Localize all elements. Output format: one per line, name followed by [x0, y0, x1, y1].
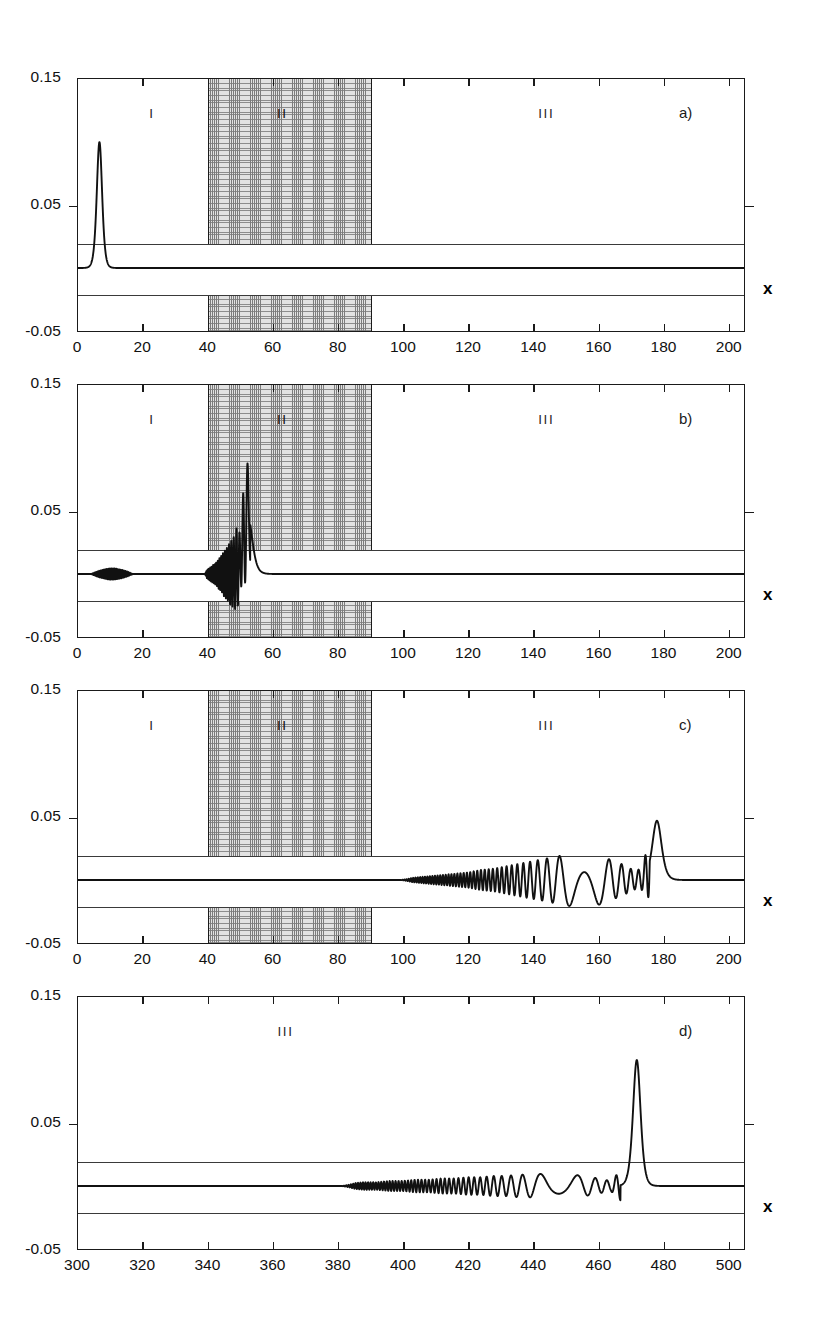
x-axis-name: x — [763, 1197, 772, 1217]
y-axis-label-1: 0.05 — [30, 195, 61, 213]
region-label-one: I — [149, 718, 154, 733]
signal-path — [78, 1060, 744, 1200]
y-axis-label-0: 0.15 — [30, 374, 61, 392]
x-axis-label-4: 380 — [325, 1256, 351, 1274]
signal-curve-d — [78, 997, 744, 1249]
x-axis-label-8: 460 — [585, 1256, 611, 1274]
y-axis-label-2: -0.05 — [25, 628, 61, 646]
region-label-one: I — [149, 106, 154, 121]
x-axis-label-9: 180 — [651, 644, 677, 662]
panel-d: 0.150.05-0.05300320340360380400420440460… — [0, 970, 813, 1270]
x-axis-label-7: 140 — [520, 644, 546, 662]
y-tick-mark-right — [744, 512, 754, 513]
x-axis-label-8: 160 — [585, 644, 611, 662]
x-axis-label-3: 60 — [264, 338, 281, 356]
panel-tag-b: b) — [679, 410, 692, 427]
panel-tag-d: d) — [679, 1022, 692, 1039]
panel-tag-a: a) — [679, 104, 692, 121]
panel-c: 0.150.05-0.05020406080100120140160180200… — [0, 664, 813, 964]
x-axis-label-3: 60 — [264, 644, 281, 662]
x-axis-label-1: 20 — [134, 338, 151, 356]
y-axis-label-2: -0.05 — [25, 1240, 61, 1258]
region-label-three: III — [278, 1024, 294, 1039]
plot-area-a — [77, 78, 745, 332]
panel-b: 0.150.05-0.05020406080100120140160180200… — [0, 358, 813, 658]
x-axis-label-5: 400 — [390, 1256, 416, 1274]
plot-area-d — [77, 996, 745, 1250]
x-axis-label-5: 100 — [390, 950, 416, 968]
x-axis-label-6: 120 — [455, 950, 481, 968]
x-axis-label-0: 0 — [73, 338, 82, 356]
x-axis-label-0: 300 — [64, 1256, 90, 1274]
x-axis-label-0: 0 — [73, 644, 82, 662]
region-label-three: III — [538, 106, 554, 121]
region-label-three: III — [538, 718, 554, 733]
panel-tag-c: c) — [679, 716, 692, 733]
x-axis-label-2: 40 — [199, 338, 216, 356]
y-tick-mark-right — [744, 206, 754, 207]
x-axis-label-9: 480 — [651, 1256, 677, 1274]
y-tick-mark-middle — [69, 818, 78, 819]
figure-wave-propagation: 0.150.05-0.05020406080100120140160180200… — [0, 0, 813, 1338]
y-axis-label-1: 0.05 — [30, 1113, 61, 1131]
x-axis-label-5: 100 — [390, 338, 416, 356]
y-tick-mark-middle — [69, 1124, 78, 1125]
y-axis-label-0: 0.15 — [30, 68, 61, 86]
x-axis-label-7: 140 — [520, 950, 546, 968]
region-label-one: I — [149, 412, 154, 427]
x-axis-label-4: 80 — [329, 644, 346, 662]
x-axis-label-9: 180 — [651, 950, 677, 968]
y-axis-label-1: 0.05 — [30, 501, 61, 519]
x-axis-label-8: 160 — [585, 950, 611, 968]
signal-curve-b — [78, 385, 744, 637]
x-axis-label-6: 120 — [455, 338, 481, 356]
plot-area-c — [77, 690, 745, 944]
y-axis-label-2: -0.05 — [25, 322, 61, 340]
signal-path — [78, 142, 744, 268]
x-axis-label-2: 40 — [199, 644, 216, 662]
signal-curve-a — [78, 79, 744, 331]
y-tick-mark-right — [744, 818, 754, 819]
signal-curve-c — [78, 691, 744, 943]
y-axis-label-0: 0.15 — [30, 680, 61, 698]
region-label-three: III — [538, 412, 554, 427]
x-axis-label-2: 40 — [199, 950, 216, 968]
x-axis-name: x — [763, 585, 772, 605]
y-tick-mark-middle — [69, 206, 78, 207]
x-axis-label-4: 80 — [329, 950, 346, 968]
x-axis-label-10: 500 — [716, 1256, 742, 1274]
x-axis-label-6: 120 — [455, 644, 481, 662]
region-label-two: II — [277, 718, 288, 733]
x-axis-label-6: 420 — [455, 1256, 481, 1274]
x-axis-label-3: 360 — [260, 1256, 286, 1274]
x-axis-label-7: 440 — [520, 1256, 546, 1274]
panel-a: 0.150.05-0.05020406080100120140160180200… — [0, 52, 813, 352]
signal-path — [78, 821, 744, 906]
signal-path — [78, 463, 744, 609]
x-axis-label-5: 100 — [390, 644, 416, 662]
x-axis-label-10: 200 — [716, 644, 742, 662]
y-axis-label-0: 0.15 — [30, 986, 61, 1004]
x-axis-label-4: 80 — [329, 338, 346, 356]
x-axis-name: x — [763, 279, 772, 299]
x-axis-label-3: 60 — [264, 950, 281, 968]
x-axis-label-9: 180 — [651, 338, 677, 356]
y-axis-label-2: -0.05 — [25, 934, 61, 952]
region-label-two: II — [277, 412, 288, 427]
y-axis-label-1: 0.05 — [30, 807, 61, 825]
y-tick-mark-right — [744, 1124, 754, 1125]
y-tick-mark-middle — [69, 512, 78, 513]
x-axis-label-10: 200 — [716, 338, 742, 356]
x-axis-label-1: 320 — [129, 1256, 155, 1274]
plot-area-b — [77, 384, 745, 638]
x-axis-label-1: 20 — [134, 950, 151, 968]
x-axis-label-10: 200 — [716, 950, 742, 968]
x-axis-label-1: 20 — [134, 644, 151, 662]
x-axis-label-7: 140 — [520, 338, 546, 356]
x-axis-label-8: 160 — [585, 338, 611, 356]
x-axis-name: x — [763, 891, 772, 911]
region-label-two: II — [277, 106, 288, 121]
x-axis-label-0: 0 — [73, 950, 82, 968]
x-axis-label-2: 340 — [194, 1256, 220, 1274]
